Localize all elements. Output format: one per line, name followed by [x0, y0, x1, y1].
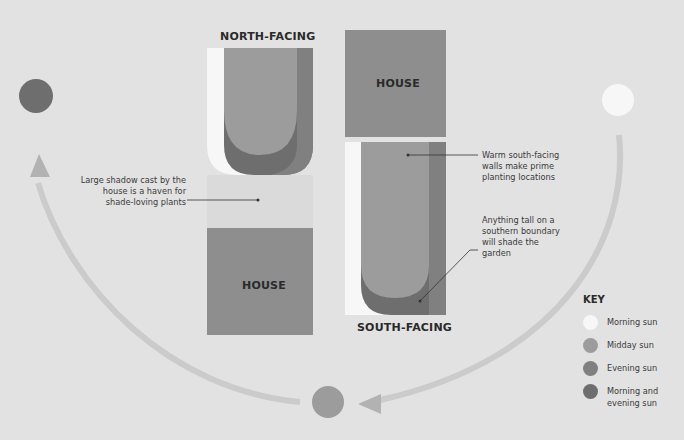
key-title: KEY [583, 294, 605, 305]
house-top-label: HOUSE [376, 77, 420, 90]
key-item-label: Morning sun [607, 316, 657, 328]
north-facing-garden [207, 48, 313, 228]
leader-dot [407, 154, 410, 157]
leader-dot [257, 199, 260, 202]
morning-sun-swatch-icon [583, 315, 598, 330]
arrowhead-left-icon [30, 154, 50, 177]
key-item-morning-sun: Morning sun [583, 315, 657, 330]
house-shadow-area [207, 175, 313, 228]
south-facing-garden [345, 142, 446, 315]
sun-evening-icon [19, 79, 53, 113]
house-bottom-label: HOUSE [242, 279, 286, 292]
sun-morning-icon [602, 84, 634, 116]
morning-and-evening-sun-swatch-icon [583, 384, 598, 399]
sun-midday-icon [312, 386, 344, 418]
annotation-tall-boundary: Anything tall on a southern boundary wil… [482, 215, 560, 259]
south-facing-label: SOUTH-FACING [357, 321, 452, 334]
key-item-label: Evening sun [607, 362, 657, 374]
midday-sun-swatch-icon [583, 338, 598, 353]
key-item-label: Midday sun [607, 339, 654, 351]
arrowhead-bottom-icon [358, 394, 381, 414]
key-item-label: Morning and evening sun [607, 385, 677, 409]
north-facing-label: NORTH-FACING [220, 30, 315, 43]
key-item-morning-and-evening-sun: Morning and evening sun [583, 384, 677, 409]
leader-dot [419, 300, 422, 303]
key-item-evening-sun: Evening sun [583, 361, 657, 376]
annotation-shade: Large shadow cast by the house is a have… [78, 175, 186, 208]
annotation-warm-walls: Warm south-facing walls make prime plant… [482, 150, 577, 183]
sun-path-diagram [0, 0, 684, 440]
key-item-midday-sun: Midday sun [583, 338, 654, 353]
evening-sun-swatch-icon [583, 361, 598, 376]
